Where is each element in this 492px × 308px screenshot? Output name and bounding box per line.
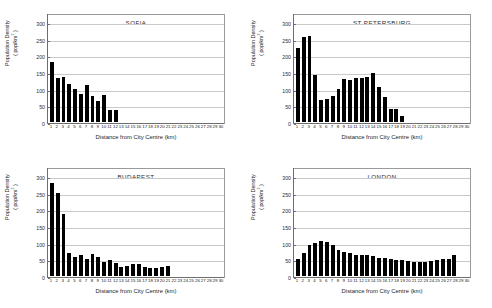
- x-axis-title: Distance from City Centre (km): [293, 288, 471, 294]
- y-axis-title-units: ( pop/km2 ): [11, 157, 18, 237]
- bar: [50, 183, 54, 276]
- bar: [400, 116, 404, 122]
- y-tick-label: 200: [282, 54, 294, 60]
- bar: [447, 259, 451, 276]
- bar: [62, 77, 66, 122]
- bar-series: [295, 22, 469, 122]
- bar: [296, 259, 300, 276]
- x-tick-labels: 1234567891011121314151617181920212223242…: [294, 125, 470, 129]
- x-tick-label: 30: [218, 279, 224, 283]
- x-tick-labels: 1234567891011121314151617181920212223242…: [48, 279, 224, 283]
- bar: [79, 255, 83, 276]
- y-tick-label: 300: [36, 21, 48, 27]
- bar: [56, 78, 60, 122]
- bar: [143, 267, 147, 276]
- bar: [360, 255, 364, 276]
- bar: [342, 79, 346, 122]
- bar: [160, 267, 164, 276]
- y-tick-label: 50: [39, 104, 48, 110]
- bar: [148, 268, 152, 276]
- y-tick-label: 300: [36, 175, 48, 181]
- chart-panel-london: Population Density ( pop/km2 ) LONDON 05…: [246, 154, 492, 308]
- bar: [342, 252, 346, 276]
- y-tick-label: 50: [285, 258, 294, 264]
- bar: [313, 75, 317, 122]
- bar-series: [49, 176, 223, 276]
- bar: [441, 259, 445, 276]
- bar: [354, 255, 358, 276]
- figure-panel-grid: Population Density ( pop/km2 ) SOFIA 050…: [0, 0, 492, 308]
- bar: [394, 260, 398, 276]
- bar: [137, 264, 141, 276]
- bar: [377, 258, 381, 276]
- y-tick-label: 300: [282, 21, 294, 27]
- bar: [360, 78, 364, 122]
- bar: [154, 268, 158, 276]
- bar: [371, 256, 375, 276]
- bar: [348, 253, 352, 276]
- bar: [452, 255, 456, 276]
- bar-slot: [217, 22, 223, 122]
- bar: [331, 245, 335, 276]
- x-tick-label: 30: [464, 279, 470, 283]
- plot-area: ST PETERSBURG: [293, 14, 471, 124]
- y-axis-title-main: Population Density: [250, 20, 256, 66]
- y-tick-label: 100: [282, 88, 294, 94]
- y-axis: 050100150200250300: [293, 168, 294, 278]
- bar: [406, 261, 410, 276]
- bar: [119, 267, 123, 276]
- y-tick-label: 100: [36, 88, 48, 94]
- bar: [377, 87, 381, 122]
- bar: [67, 253, 71, 276]
- bar-series: [295, 176, 469, 276]
- bar: [383, 258, 387, 276]
- y-axis-title: Population Density ( pop/km2 ): [250, 3, 264, 83]
- bar: [389, 259, 393, 276]
- bar: [91, 254, 95, 276]
- bar: [365, 255, 369, 276]
- bar: [73, 257, 77, 276]
- bar: [114, 110, 118, 122]
- y-tick-label: 250: [282, 38, 294, 44]
- x-axis-title: Distance from City Centre (km): [47, 134, 225, 140]
- bar: [114, 263, 118, 276]
- plot-area: SOFIA: [47, 14, 225, 124]
- bar: [429, 261, 433, 276]
- y-axis-title: Population Density ( pop/km2 ): [4, 157, 18, 237]
- bar: [62, 214, 66, 276]
- y-axis: 050100150200250300: [47, 168, 48, 278]
- chart-panel-sofia: Population Density ( pop/km2 ) SOFIA 050…: [0, 0, 246, 154]
- x-axis-title: Distance from City Centre (km): [47, 288, 225, 294]
- y-tick-label: 250: [36, 38, 48, 44]
- bar: [394, 109, 398, 122]
- bar: [302, 37, 306, 122]
- y-tick-label: 150: [282, 225, 294, 231]
- bar: [85, 259, 89, 276]
- bar: [91, 96, 95, 122]
- bar: [354, 78, 358, 122]
- plot-area: BUDAPEST: [47, 168, 225, 278]
- bar: [302, 253, 306, 276]
- bar: [96, 257, 100, 276]
- x-tick-labels: 1234567891011121314151617181920212223242…: [48, 125, 224, 129]
- bar: [125, 266, 129, 276]
- bar: [418, 262, 422, 276]
- x-axis-title: Distance from City Centre (km): [293, 134, 471, 140]
- plot-area: LONDON: [293, 168, 471, 278]
- bar: [102, 262, 106, 276]
- bar: [131, 264, 135, 276]
- bar: [389, 109, 393, 122]
- y-axis-title-main: Population Density: [4, 174, 10, 220]
- y-tick-label: 300: [282, 175, 294, 181]
- y-axis-title-units: ( pop/km2 ): [11, 3, 18, 83]
- y-tick-label: 250: [36, 192, 48, 198]
- y-tick-label: 150: [282, 71, 294, 77]
- bar: [79, 94, 83, 122]
- bar: [337, 250, 341, 276]
- bar: [423, 262, 427, 276]
- bar: [308, 36, 312, 122]
- bar: [308, 245, 312, 276]
- y-tick-label: 50: [39, 258, 48, 264]
- y-tick-label: 150: [36, 225, 48, 231]
- chart-panel-st-petersburg: Population Density ( pop/km2 ) ST PETERS…: [246, 0, 492, 154]
